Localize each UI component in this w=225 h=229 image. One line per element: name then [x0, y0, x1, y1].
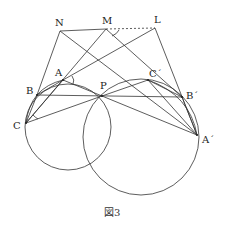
angle-mark-A — [72, 76, 74, 84]
segment-BB2 — [37, 95, 182, 97]
segment-ML-dashed — [106, 28, 155, 29]
label-A-prime: A´ — [202, 135, 214, 145]
segment-PA2 — [102, 96, 197, 135]
segment-PC2 — [102, 80, 148, 96]
small-circle — [25, 84, 111, 170]
segment-MB2 — [106, 29, 182, 97]
angle-mark-C — [33, 115, 38, 119]
segment-BC — [26, 95, 37, 123]
segment-LA — [63, 28, 155, 80]
label-N: N — [55, 18, 64, 28]
label-C: C — [13, 121, 21, 131]
segment-AP — [63, 80, 102, 96]
label-B-prime: B´ — [186, 91, 198, 101]
geometry-diagram — [0, 0, 225, 229]
label-P: P — [100, 81, 107, 91]
angle-mark-M — [112, 30, 119, 36]
segment-NM — [60, 29, 106, 31]
label-C-prime: C´ — [149, 69, 162, 79]
figure-3: N M L A B C P C´ B´ A´ 図3 — [0, 0, 225, 229]
label-M: M — [102, 16, 112, 26]
label-B: B — [26, 86, 33, 96]
label-A: A — [55, 68, 62, 78]
segment-AB — [37, 80, 63, 95]
segment-C2B2 — [148, 80, 182, 97]
figure-caption: 図3 — [104, 204, 120, 219]
label-L: L — [154, 15, 161, 25]
